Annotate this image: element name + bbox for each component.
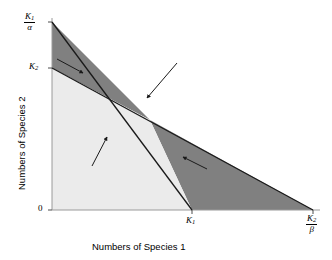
y-tick-label-k2: K2 bbox=[29, 62, 38, 72]
chart-figure: K1 α K2 0 K1 K2 β Numbers of Species 1 N… bbox=[0, 0, 332, 260]
x-axis-title: Numbers of Species 1 bbox=[92, 241, 185, 252]
y-tick-label-k1-over-alpha: K1 α bbox=[24, 12, 35, 32]
isocline-plot bbox=[0, 0, 332, 260]
x-tick-label-k2-over-beta: K2 β bbox=[306, 214, 317, 234]
y-tick-label-zero: 0 bbox=[38, 204, 43, 213]
x-tick-label-k1: K1 bbox=[186, 216, 195, 226]
y-axis-title: Numbers of Species 2 bbox=[16, 97, 27, 190]
